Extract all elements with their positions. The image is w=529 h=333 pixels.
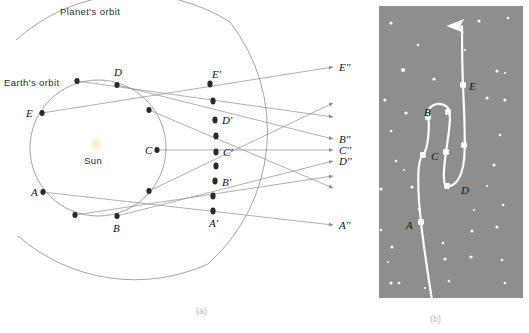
track-label-B: B (424, 106, 431, 118)
star-30 (469, 255, 472, 258)
starfield-background (379, 6, 523, 298)
star-37 (464, 49, 466, 51)
star-0 (389, 21, 392, 24)
caption-panel-a: (a) (196, 306, 207, 316)
star-32 (389, 281, 392, 284)
planet-label-B-prime: B' (222, 176, 232, 188)
track-dot-A (418, 219, 424, 225)
track-label-E: E (468, 80, 476, 92)
track-dot-E (460, 82, 466, 88)
star-18 (379, 187, 382, 190)
star-33 (398, 282, 401, 285)
star-16 (492, 163, 495, 166)
sun-glow (87, 135, 105, 153)
astronomy-retrograde-figure: Planet's orbit Earth's orbit Sun A B C D… (0, 0, 529, 333)
earth-dot-D (114, 82, 119, 88)
sight-lines-group (42, 67, 333, 225)
star-17 (486, 185, 488, 187)
earth-dot-E (39, 110, 44, 116)
star-1 (417, 44, 420, 47)
star-11 (404, 111, 407, 114)
track-dot-D2 (461, 142, 467, 148)
earth-dot-extra-4 (72, 212, 77, 218)
star-31 (501, 259, 504, 262)
figure-root: Planet's orbit Earth's orbit Sun A B C D… (0, 0, 529, 333)
panel-b: A B C D E (b) (379, 6, 523, 324)
star-21 (502, 204, 505, 207)
earth-dot-A (40, 189, 45, 195)
planet-dot-extra-4 (210, 98, 215, 105)
earth-dot-extra-2 (146, 107, 151, 113)
star-35 (504, 282, 507, 285)
star-23 (380, 229, 383, 232)
star-28 (387, 261, 389, 263)
star-13 (499, 134, 502, 137)
star-4 (401, 68, 405, 72)
track-dot-C (420, 152, 426, 158)
star-7 (504, 72, 506, 74)
star-22 (473, 209, 475, 211)
planet-dot-D-prime (212, 117, 217, 124)
planet-label-C-prime: C' (223, 146, 233, 158)
star-5 (432, 77, 435, 80)
star-25 (495, 225, 498, 228)
earth-label-A: A (30, 186, 38, 198)
star-29 (443, 257, 446, 260)
planet-label-A-prime: A' (208, 217, 219, 229)
star-36 (424, 287, 426, 289)
planet-orbit-label: Planet's orbit (60, 6, 120, 17)
star-26 (390, 245, 393, 248)
earth-dot-B (114, 213, 119, 219)
star-24 (470, 229, 473, 232)
star-14 (395, 160, 398, 163)
sight-line-extra-4 (75, 176, 333, 215)
earth-label-D: D (113, 66, 122, 78)
earth-label-E: E (25, 107, 33, 119)
star-6 (495, 69, 498, 72)
sun-label: Sun (84, 155, 102, 166)
star-8 (383, 98, 386, 101)
earth-dot-extra-1 (74, 78, 79, 84)
sight-line-E (42, 67, 333, 113)
track-label-C: C (431, 150, 439, 162)
caption-panel-b: (b) (430, 314, 441, 324)
sight-line-A (43, 192, 333, 225)
star-19 (410, 185, 413, 188)
track-dot-B2 (445, 109, 451, 115)
planet-dot-A-prime (210, 208, 215, 215)
star-12 (390, 130, 393, 133)
earth-dot-C (154, 147, 159, 153)
star-34 (448, 280, 451, 283)
planet-dot-extra-3 (213, 133, 218, 140)
star-15 (403, 169, 405, 171)
planet-dot-extra-1 (210, 193, 215, 200)
star-27 (442, 242, 445, 245)
planet-dot-E-prime (207, 81, 212, 88)
sky-label-E-double-prime: E'' (338, 61, 351, 73)
earth-orbit-label: Earth's orbit (4, 77, 60, 88)
sight-line-extra-2 (149, 110, 333, 188)
earth-label-B: B (113, 222, 120, 234)
planet-orbit-arc (16, 0, 267, 280)
track-label-A: A (405, 219, 413, 231)
track-label-D: D (460, 184, 469, 196)
star-2 (477, 19, 480, 22)
track-dot-D (444, 183, 450, 189)
earth-label-C: C (145, 144, 153, 156)
planet-dot-B-prime (212, 178, 217, 185)
panel-a: Planet's orbit Earth's orbit Sun A B C D… (4, 0, 352, 316)
earth-dot-extra-3 (146, 188, 151, 194)
star-9 (485, 96, 488, 99)
planet-dot-extra-2 (213, 163, 218, 170)
planet-label-D-prime: D' (221, 114, 233, 126)
sky-label-A-double-prime: A'' (338, 219, 351, 231)
sky-label-D-double-prime: D'' (338, 155, 352, 167)
planet-label-E-prime: E' (211, 68, 222, 80)
planet-dot-C-prime (213, 149, 218, 156)
star-3 (507, 17, 510, 20)
track-dot-C2 (443, 149, 449, 155)
star-10 (503, 98, 506, 101)
